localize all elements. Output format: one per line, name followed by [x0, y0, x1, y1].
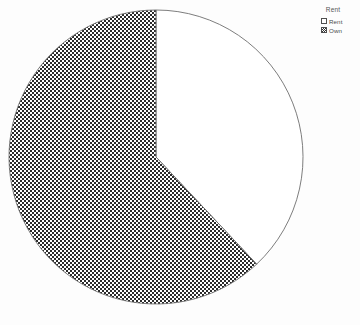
- legend-swatch-rent-icon: [321, 18, 327, 24]
- legend-title: Rent: [312, 6, 356, 14]
- legend-item-own[interactable]: Own: [312, 26, 356, 34]
- legend: Rent Rent Own: [312, 6, 356, 35]
- legend-label-own: Own: [329, 27, 342, 34]
- pie-chart-graphic: [0, 0, 360, 325]
- legend-label-rent: Rent: [329, 18, 342, 25]
- legend-item-rent[interactable]: Rent: [312, 17, 356, 25]
- legend-swatch-own-icon: [321, 27, 327, 33]
- pie-chart-canvas: Rent Rent Own: [0, 0, 360, 325]
